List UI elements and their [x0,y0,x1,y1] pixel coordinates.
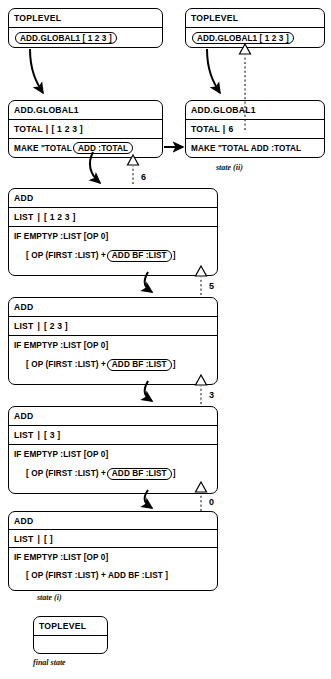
variable-separator: | [37,430,40,440]
frame-title: ADD.GLOBAL1 [9,101,162,120]
caption-state-i: state (i) [37,593,62,602]
frame-add-3: ADD LIST | [ 3 ] IF EMPTYP :LIST [OP 0] … [8,406,218,494]
frame-title: ADD.GLOBAL1 [186,101,324,120]
frame-body-line: ADD.GLOBAL1 [ 1 2 3 ] [191,32,295,44]
frame-add-1: ADD LIST | [ 1 2 3 ] IF EMPTYP :LIST [OP… [8,188,218,276]
frame-title-text: ADD.GLOBAL1 [191,105,256,115]
variable-separator: | [37,321,40,331]
variable-value: [ ] [44,534,53,544]
call-arrow-toplevel-to-addglobal1-left [30,49,43,93]
frame-variable-row: TOTAL | 6 [186,120,324,139]
frame-body: ADD.GLOBAL1 [ 1 2 3 ] [186,28,324,48]
variable-name: LIST [14,430,33,440]
return-value-6: 6 [141,172,146,182]
variable-name: LIST [14,321,33,331]
active-expression-highlight[interactable]: ADD.GLOBAL1 [ 1 2 3 ] [192,32,294,44]
active-expression-text: ADD :TOTAL [78,143,128,154]
active-expression-highlight[interactable]: ADD BF :LIST [107,468,172,480]
frame-body-lines: IF EMPTYP :LIST [OP 0] [ OP (FIRST :LIST… [14,445,176,480]
variable-value: [ 1 2 3 ] [44,212,75,222]
frame-body-line: ADD.GLOBAL1 [ 1 2 3 ] [14,32,118,44]
body-line-recursive: [ OP (FIRST :LIST) + ADD BF :LIST ] [14,467,176,480]
frame-toplevel-right: TOPLEVEL ADD.GLOBAL1 [ 1 2 3 ] [185,8,325,48]
frame-title-text: ADD.GLOBAL1 [14,105,79,115]
frame-variable-row: LIST | [ ] [9,530,217,548]
active-expression-highlight[interactable]: ADD :TOTAL [73,142,133,154]
frame-variable-row: LIST | [ 2 3 ] [9,317,217,336]
active-expression-highlight[interactable]: ADD BF :LIST [107,359,172,371]
frame-title: ADD [9,189,217,208]
frame-title-text: ADD [14,302,33,312]
variable-name: TOTAL [191,124,220,134]
variable-separator: | [46,124,49,134]
frame-title: ADD [9,512,217,530]
variable-separator: | [37,212,40,222]
frame-title-text: TOPLEVEL [39,621,86,631]
frame-title-text: ADD [14,411,33,421]
frame-variable-row: TOTAL | [ 1 2 3 ] [9,120,162,139]
body-prefix: MAKE "TOTAL ADD :TOTAL [191,144,301,153]
frame-body-line: MAKE "TOTAL ADD :TOTAL [191,144,301,153]
return-value-5: 5 [209,281,214,291]
frame-body: IF EMPTYP :LIST [OP 0] [ OP (FIRST :LIST… [9,227,217,275]
active-expression-highlight[interactable]: ADD.GLOBAL1 [ 1 2 3 ] [15,32,117,44]
variable-separator: | [37,534,40,544]
body-suffix: ] [173,360,176,369]
frame-body-lines: IF EMPTYP :LIST [OP 0] [ OP (FIRST :LIST… [14,548,168,582]
frame-body: MAKE "TOTAL ADD :TOTAL [186,139,324,157]
variable-separator: | [223,124,226,134]
frame-addglobal1-right: ADD.GLOBAL1 TOTAL | 6 MAKE "TOTAL ADD :T… [185,100,325,158]
body-prefix: [ OP (FIRST :LIST) + ADD BF :LIST ] [26,571,168,580]
frame-title-text: ADD [14,516,33,526]
body-line-recursive: [ OP (FIRST :LIST) + ADD BF :LIST ] [14,358,176,371]
variable-value: [ 2 3 ] [44,321,68,331]
frame-toplevel-final: TOPLEVEL [33,616,108,654]
frame-body: MAKE "TOTAL ADD :TOTAL [9,139,162,157]
frame-variable-row: LIST | [ 3 ] [9,426,217,445]
body-line-text: IF EMPTYP :LIST [OP 0] [14,553,108,562]
call-arrow-toplevel-to-addglobal1-right [207,49,220,93]
frame-body-lines: IF EMPTYP :LIST [OP 0] [ OP (FIRST :LIST… [14,227,176,262]
frame-add-2: ADD LIST | [ 2 3 ] IF EMPTYP :LIST [OP 0… [8,297,218,385]
body-prefix: [ OP (FIRST :LIST) + [26,469,106,478]
variable-name: LIST [14,212,33,222]
frame-variable-row: LIST | [ 1 2 3 ] [9,208,217,227]
body-line-conditional: IF EMPTYP :LIST [OP 0] [14,339,176,352]
frame-title: TOPLEVEL [34,617,107,636]
body-line-conditional: IF EMPTYP :LIST [OP 0] [14,448,176,461]
variable-name: LIST [14,534,33,544]
frame-body: IF EMPTYP :LIST [OP 0] [ OP (FIRST :LIST… [9,336,217,384]
frame-body: IF EMPTYP :LIST [OP 0] [ OP (FIRST :LIST… [9,548,217,591]
frame-add-4: ADD LIST | [ ] IF EMPTYP :LIST [OP 0] [ … [8,511,218,591]
frame-title-text: ADD [14,193,33,203]
frame-toplevel-left: TOPLEVEL ADD.GLOBAL1 [ 1 2 3 ] [8,8,163,48]
frame-addglobal1-left: ADD.GLOBAL1 TOTAL | [ 1 2 3 ] MAKE "TOTA… [8,100,163,158]
body-line-text: IF EMPTYP :LIST [OP 0] [14,450,108,459]
frame-title: TOPLEVEL [9,9,162,28]
caption-text: state (ii) [216,163,243,172]
return-value-text: 0 [209,497,214,507]
body-prefix: [ OP (FIRST :LIST) + [26,360,106,369]
caption-text: final state [33,658,66,667]
active-expression-text: ADD BF :LIST [112,468,167,479]
frame-title-text: TOPLEVEL [191,13,238,23]
variable-name: TOTAL [14,124,43,134]
active-expression-highlight[interactable]: ADD BF :LIST [107,250,172,262]
active-expression-text: ADD.GLOBAL1 [ 1 2 3 ] [197,33,289,44]
frame-body: ADD.GLOBAL1 [ 1 2 3 ] [9,28,162,48]
body-line-recursive: [ OP (FIRST :LIST) + ADD BF :LIST ] [14,569,168,582]
caption-final-state: final state [33,658,66,667]
active-expression-text: ADD.GLOBAL1 [ 1 2 3 ] [20,33,112,44]
frame-body-line: MAKE "TOTAL ADD :TOTAL [14,142,134,154]
diagram-canvas: TOPLEVEL ADD.GLOBAL1 [ 1 2 3 ] TOPLEVEL … [0,0,331,679]
return-value-3: 3 [209,390,214,400]
frame-title: TOPLEVEL [186,9,324,28]
body-line-conditional: IF EMPTYP :LIST [OP 0] [14,230,176,243]
caption-state-ii: state (ii) [216,163,243,172]
body-line-conditional: IF EMPTYP :LIST [OP 0] [14,551,168,564]
frame-title: ADD [9,298,217,317]
body-suffix: ] [173,251,176,260]
variable-value: [ 3 ] [44,430,60,440]
frame-body-lines: IF EMPTYP :LIST [OP 0] [ OP (FIRST :LIST… [14,336,176,371]
frame-body: IF EMPTYP :LIST [OP 0] [ OP (FIRST :LIST… [9,445,217,493]
